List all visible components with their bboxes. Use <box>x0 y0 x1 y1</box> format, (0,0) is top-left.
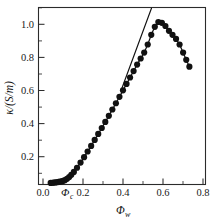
data-point <box>120 87 126 93</box>
data-point <box>183 57 189 63</box>
data-point <box>74 165 80 171</box>
data-point <box>123 81 129 87</box>
data-point <box>145 41 151 47</box>
data-point <box>106 113 112 119</box>
y-tick-label-0-2: 0.2 <box>21 151 34 162</box>
x-tick-label-0-6: 0.6 <box>156 187 169 198</box>
data-point <box>180 49 186 55</box>
data-point <box>186 64 192 70</box>
data-point <box>113 100 119 106</box>
data-point <box>134 62 140 68</box>
data-point <box>148 32 154 38</box>
y-tick-label-1-0: 1.0 <box>21 19 34 30</box>
phi-c-symbol: Φ <box>61 186 70 198</box>
y-axis-title-text: κ/(S/m) <box>3 81 16 115</box>
x-tick-label-0-2: 0.2 <box>76 187 89 198</box>
x-axis-title-symbol: Φ <box>116 204 125 216</box>
data-point <box>85 148 91 154</box>
y-tick-label-0-8: 0.8 <box>21 52 34 63</box>
y-tick-label-0-6: 0.6 <box>21 85 34 96</box>
x-tick-label-0-0: 0.0 <box>36 187 49 198</box>
data-point <box>141 49 147 55</box>
x-axis-title-subscript: w <box>125 210 131 219</box>
data-point <box>176 41 182 47</box>
data-point <box>109 106 115 112</box>
data-point <box>116 94 122 100</box>
data-point <box>77 160 83 166</box>
data-point <box>173 36 179 42</box>
data-point <box>95 131 101 137</box>
data-point <box>88 143 94 149</box>
chart-figure: 1.0 0.8 0.6 0.4 0.2 0.0 0.2 0.4 0.6 0.8 … <box>0 0 221 221</box>
data-point <box>99 125 105 131</box>
data-point <box>130 68 136 74</box>
data-point <box>92 137 98 143</box>
x-tick-label-0-8: 0.8 <box>196 187 209 198</box>
data-point <box>138 55 144 61</box>
x-tick-label-0-4: 0.4 <box>116 187 130 198</box>
conductivity-vs-water-fraction-chart: 1.0 0.8 0.6 0.4 0.2 0.0 0.2 0.4 0.6 0.8 … <box>0 0 221 221</box>
y-axis-title: κ/(S/m) <box>3 81 16 115</box>
data-point <box>127 74 133 80</box>
y-tick-label-0-4: 0.4 <box>21 118 35 129</box>
data-point <box>81 154 87 160</box>
data-point <box>102 119 108 125</box>
